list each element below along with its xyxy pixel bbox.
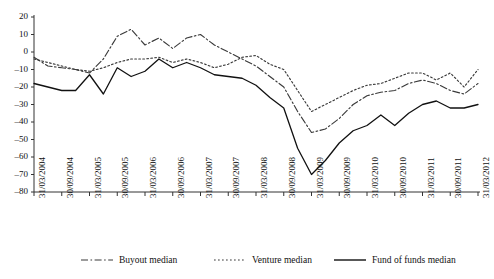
x-axis-tick-label: 31/03/2004 — [38, 157, 47, 198]
y-axis-tick-label: –20 — [0, 82, 28, 91]
x-axis-tick-label: 31/03/2008 — [260, 157, 269, 198]
x-axis-tick-label: 30/09/2004 — [66, 157, 75, 198]
series-line-1 — [34, 56, 478, 112]
x-axis-tick-label: 30/09/2010 — [399, 157, 408, 198]
x-axis-tick-label: 30/09/2005 — [121, 157, 130, 198]
x-axis-tick-label: 31/03/2005 — [94, 157, 103, 198]
y-axis-tick-label: –80 — [0, 187, 28, 196]
chart-figure: 20100–10–20–30–40–50–60–70–80 31/03/2004… — [0, 0, 494, 279]
series-line-0 — [34, 29, 478, 132]
legend-item-1[interactable]: Venture median — [213, 253, 312, 267]
chart-series-group — [34, 29, 478, 174]
x-axis-tick-label: 30/09/2006 — [177, 157, 186, 198]
y-axis-tick-label: –30 — [0, 100, 28, 109]
x-axis-tick-label: 31/03/2009 — [316, 157, 325, 198]
y-axis-tick-label: –70 — [0, 170, 28, 179]
legend-swatch-solid — [333, 256, 367, 264]
chart-plot-area — [0, 0, 494, 279]
x-axis-tick-label: 31/03/2012 — [482, 157, 491, 198]
x-axis-tick-label: 31/03/2011 — [427, 157, 436, 198]
legend-label: Buyout median — [119, 255, 177, 265]
x-axis-tick-label: 31/03/2006 — [149, 157, 158, 198]
y-axis-tick-label: –50 — [0, 135, 28, 144]
legend-label: Venture median — [252, 255, 312, 265]
legend-label: Fund of funds median — [372, 255, 456, 265]
legend-item-0[interactable]: Buyout median — [80, 253, 177, 267]
legend-swatch-dash-dot — [80, 256, 114, 264]
y-axis-tick-label: –10 — [0, 65, 28, 74]
y-axis-tick-label: –40 — [0, 117, 28, 126]
y-axis-tick-label: 20 — [0, 12, 28, 21]
chart-legend: Buyout medianVenture medianFund of funds… — [0, 248, 494, 279]
legend-item-2[interactable]: Fund of funds median — [333, 253, 456, 267]
x-axis-tick-label: 31/03/2007 — [205, 157, 214, 198]
y-axis-tick-label: 0 — [0, 47, 28, 56]
legend-swatch-dotted — [213, 256, 247, 264]
x-axis-tick-label: 30/09/2008 — [288, 157, 297, 198]
x-axis-tick-label: 31/03/2010 — [371, 157, 380, 198]
y-axis-tick-label: –60 — [0, 152, 28, 161]
x-axis-tick-label: 30/09/2009 — [343, 157, 352, 198]
x-axis-tick-label: 30/09/2007 — [232, 157, 241, 198]
y-axis-tick-label: 10 — [0, 30, 28, 39]
x-axis-tick-label: 30/09/2011 — [454, 157, 463, 198]
